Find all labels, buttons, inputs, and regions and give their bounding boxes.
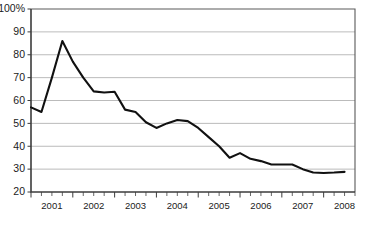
x-axis-tick-label: 2007 bbox=[292, 200, 313, 211]
y-axis-tick-label: 70 bbox=[13, 71, 25, 83]
x-axis-tick-label: 2006 bbox=[250, 200, 271, 211]
x-axis-tick-label: 2001 bbox=[41, 200, 62, 211]
y-axis-tick-label: 90 bbox=[13, 25, 25, 37]
data-series-line bbox=[31, 41, 345, 173]
y-axis-tick-label: 20 bbox=[13, 185, 25, 197]
y-axis-tick-label: 40 bbox=[13, 140, 25, 152]
x-axis-tick-label: 2003 bbox=[125, 200, 146, 211]
y-axis-tick-label: 60 bbox=[13, 94, 25, 106]
x-axis-tick-label: 2008 bbox=[334, 200, 355, 211]
y-axis-tick-label: 100% bbox=[0, 2, 25, 14]
x-axis-tick-label: 2002 bbox=[83, 200, 104, 211]
y-axis-tick-label: 80 bbox=[13, 48, 25, 60]
line-chart: 100%908070605040302020012002200320042005… bbox=[0, 0, 368, 228]
x-axis-tick-label: 2004 bbox=[167, 200, 188, 211]
x-axis-tick-label: 2005 bbox=[209, 200, 230, 211]
chart-plot-svg: 100%908070605040302020012002200320042005… bbox=[0, 0, 368, 228]
y-axis-tick-label: 30 bbox=[13, 162, 25, 174]
y-axis-tick-label: 50 bbox=[13, 117, 25, 129]
